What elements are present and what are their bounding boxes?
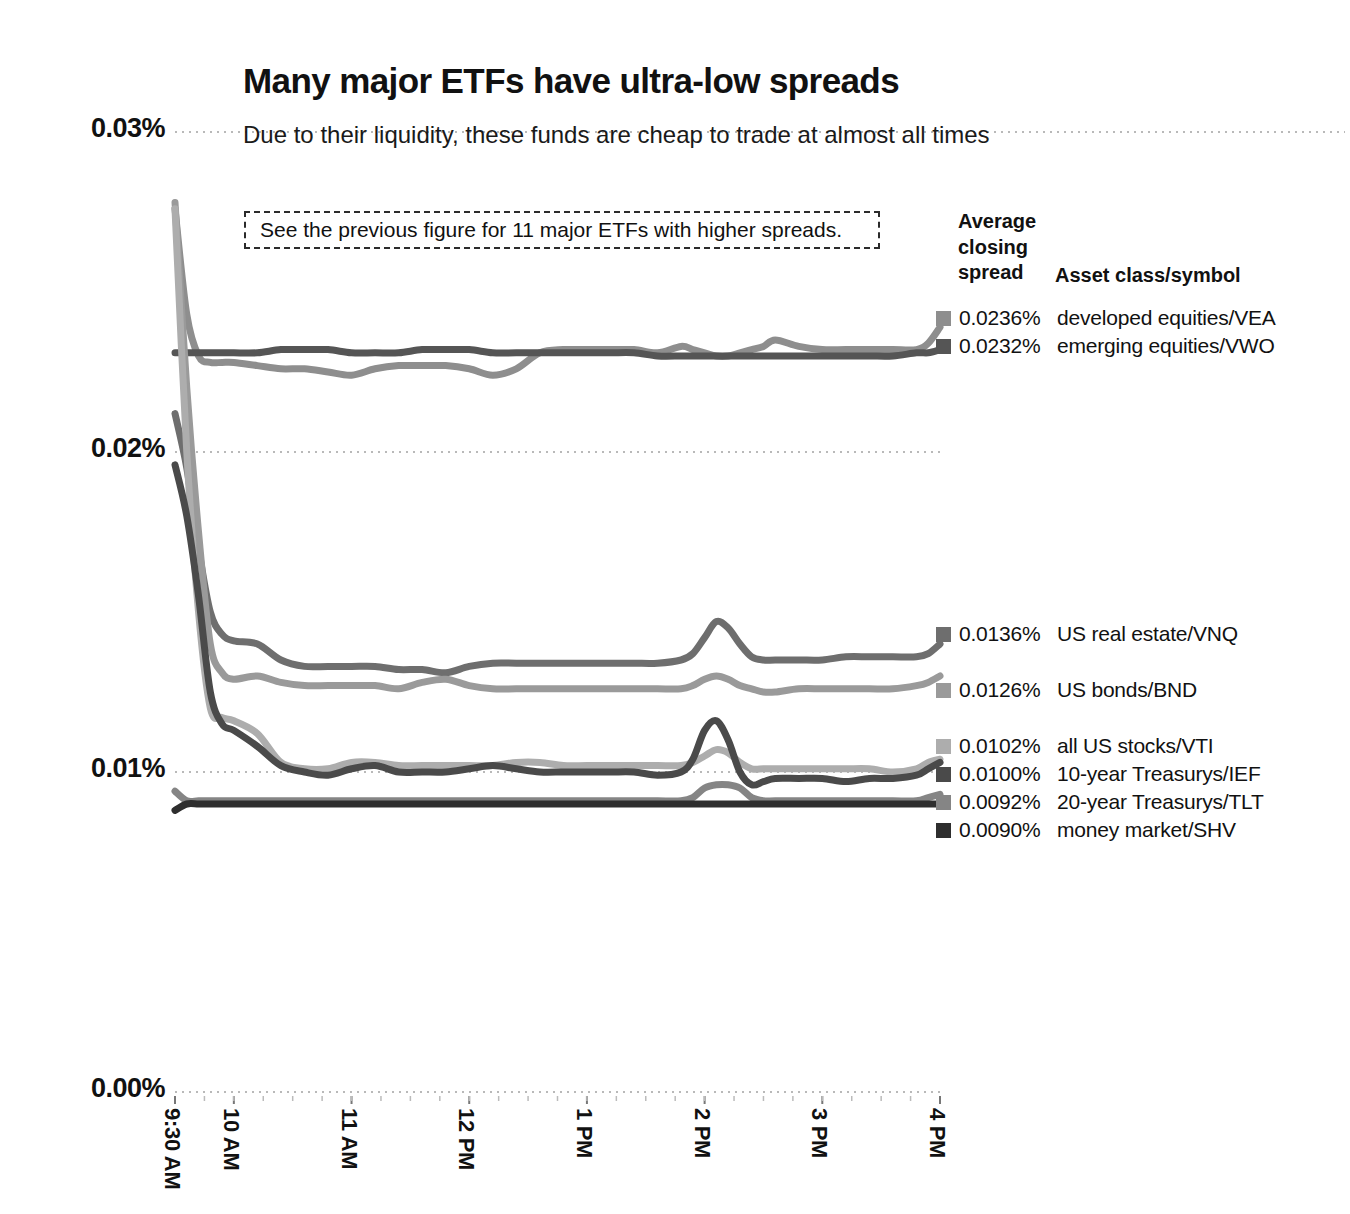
legend-item-label: developed equities/VEA bbox=[1057, 306, 1276, 330]
series-line-vnq bbox=[175, 414, 940, 673]
legend-item-label: money market/SHV bbox=[1057, 818, 1236, 842]
legend-swatch-icon bbox=[936, 683, 951, 698]
y-axis-tick-label: 0.01% bbox=[15, 753, 165, 784]
x-axis-tick-label: 2 PM bbox=[689, 1108, 715, 1158]
legend-item-label: all US stocks/VTI bbox=[1057, 734, 1213, 758]
legend-header-line-2: closing bbox=[958, 235, 1036, 261]
legend-item-label: 10-year Treasurys/IEF bbox=[1057, 762, 1261, 786]
legend-item-label: 20-year Treasurys/TLT bbox=[1057, 790, 1264, 814]
legend-header-line-1: Average bbox=[958, 209, 1036, 235]
legend-item-value: 0.0126% bbox=[959, 678, 1057, 702]
legend-header-spread: Average closing spread bbox=[958, 209, 1036, 286]
chart-figure: 0.00%0.01%0.02%0.03% 9:30 AM10 AM11 AM12… bbox=[0, 0, 1350, 1214]
legend-item-value: 0.0236% bbox=[959, 306, 1057, 330]
legend-item-value: 0.0232% bbox=[959, 334, 1057, 358]
series-line-ief bbox=[175, 465, 940, 785]
legend-item: 0.0102%all US stocks/VTI bbox=[936, 733, 1213, 759]
legend-item: 0.0136%US real estate/VNQ bbox=[936, 621, 1238, 647]
x-axis-tick-label: 4 PM bbox=[924, 1108, 950, 1158]
legend-item-value: 0.0100% bbox=[959, 762, 1057, 786]
x-axis-tick-label: 9:30 AM bbox=[159, 1108, 185, 1189]
y-axis-tick-label: 0.02% bbox=[15, 433, 165, 464]
legend-swatch-icon bbox=[936, 627, 951, 642]
legend-item: 0.0100%10-year Treasurys/IEF bbox=[936, 761, 1261, 787]
legend-item-label: US bonds/BND bbox=[1057, 678, 1197, 702]
x-axis-tick-label: 10 AM bbox=[218, 1108, 244, 1170]
series-line-shv bbox=[175, 804, 940, 811]
legend-item: 0.0092%20-year Treasurys/TLT bbox=[936, 789, 1264, 815]
x-axis-tick-label: 1 PM bbox=[571, 1108, 597, 1158]
annotation-callout: See the previous figure for 11 major ETF… bbox=[244, 211, 880, 249]
y-axis-tick-label: 0.03% bbox=[15, 113, 165, 144]
legend-swatch-icon bbox=[936, 311, 951, 326]
legend-swatch-icon bbox=[936, 767, 951, 782]
y-axis-tick-label: 0.00% bbox=[15, 1073, 165, 1104]
legend-item: 0.0236%developed equities/VEA bbox=[936, 305, 1276, 331]
page-title: Many major ETFs have ultra-low spreads bbox=[243, 63, 1143, 100]
annotation-text: See the previous figure for 11 major ETF… bbox=[260, 218, 842, 242]
legend-item-value: 0.0102% bbox=[959, 734, 1057, 758]
legend-item-value: 0.0090% bbox=[959, 818, 1057, 842]
x-axis-tick-label: 3 PM bbox=[806, 1108, 832, 1158]
series-line-bnd bbox=[175, 202, 940, 692]
legend-item-value: 0.0092% bbox=[959, 790, 1057, 814]
legend-item: 0.0232%emerging equities/VWO bbox=[936, 333, 1275, 359]
legend-item: 0.0090%money market/SHV bbox=[936, 817, 1236, 843]
legend-swatch-icon bbox=[936, 795, 951, 810]
page-subtitle: Due to their liquidity, these funds are … bbox=[243, 120, 1143, 150]
legend-swatch-icon bbox=[936, 823, 951, 838]
legend-item-label: US real estate/VNQ bbox=[1057, 622, 1238, 646]
legend-swatch-icon bbox=[936, 739, 951, 754]
plot-area bbox=[0, 0, 1350, 1214]
legend-item: 0.0126%US bonds/BND bbox=[936, 677, 1197, 703]
x-axis-tick-label: 11 AM bbox=[336, 1108, 362, 1169]
series-line-tlt bbox=[175, 784, 940, 801]
legend-item-label: emerging equities/VWO bbox=[1057, 334, 1275, 358]
legend-item-value: 0.0136% bbox=[959, 622, 1057, 646]
x-axis-tick-label: 12 PM bbox=[453, 1108, 479, 1170]
legend-header-line-3: spread bbox=[958, 260, 1036, 286]
legend-header-asset-class: Asset class/symbol bbox=[1055, 264, 1241, 287]
legend-swatch-icon bbox=[936, 339, 951, 354]
